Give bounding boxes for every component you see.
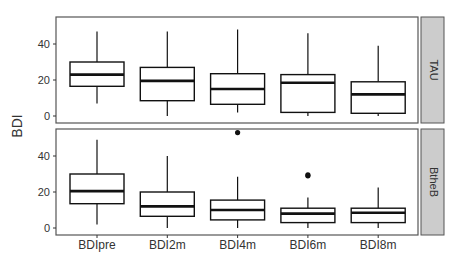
x-tick-label: BDI4m [219, 238, 256, 252]
y-tick-label: 40 [38, 38, 50, 50]
y-axis-title: BDI [9, 114, 25, 137]
x-tick-label: BDI8m [360, 238, 397, 252]
box-bdi2m [140, 192, 194, 216]
outlier-point [305, 172, 310, 177]
boxplot-chart: BDITAU02040BtheB02040BDIpreBDI2mBDI4mBDI… [0, 0, 460, 271]
x-tick-label: BDIpre [78, 238, 116, 252]
x-tick-label: BDI6m [290, 238, 327, 252]
facet-label: BtheB [428, 167, 440, 197]
outlier-point [235, 130, 240, 135]
y-tick-label: 20 [38, 186, 50, 198]
y-tick-label: 20 [38, 74, 50, 86]
box-bdi6m [281, 75, 335, 113]
chart-canvas: BDITAU02040BtheB02040BDIpreBDI2mBDI4mBDI… [0, 0, 460, 271]
box-bdi8m [351, 82, 405, 114]
facet-label: TAU [428, 59, 440, 80]
box-bdi8m [351, 208, 405, 222]
box-bdi6m [281, 208, 335, 222]
y-tick-label: 0 [44, 222, 50, 234]
y-tick-label: 40 [38, 150, 50, 162]
x-tick-label: BDI2m [149, 238, 186, 252]
box-bdi2m [140, 67, 194, 100]
y-tick-label: 0 [44, 110, 50, 122]
box-bdipre [70, 174, 124, 204]
